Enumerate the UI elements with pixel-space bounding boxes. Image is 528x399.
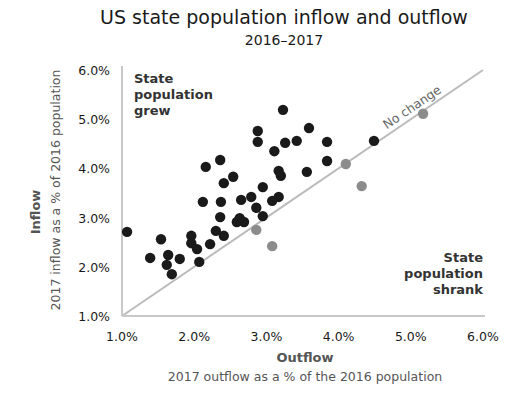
data-points <box>122 105 428 280</box>
no-change-label: No change <box>380 82 444 132</box>
data-point <box>236 195 246 205</box>
data-point <box>122 227 132 237</box>
x-axis-title: Outflow <box>276 350 333 365</box>
data-point <box>246 192 256 202</box>
data-point <box>239 217 249 227</box>
scatter-plot: No change 1.0%2.0%3.0%4.0%5.0%6.0%1.0%2.… <box>0 0 528 399</box>
data-point <box>194 257 204 267</box>
data-point <box>258 182 268 192</box>
data-point <box>302 167 312 177</box>
data-point <box>341 159 351 169</box>
axis-labels: 1.0%2.0%3.0%4.0%5.0%6.0%1.0%2.0%3.0%4.0%… <box>28 63 499 384</box>
x-tick-label: 3.0% <box>251 329 283 344</box>
y-tick-label: 6.0% <box>78 63 110 78</box>
data-point <box>215 212 225 222</box>
y-tick-label: 1.0% <box>78 309 110 324</box>
data-point <box>167 269 177 279</box>
data-point <box>192 244 202 254</box>
x-tick-label: 2.0% <box>178 329 210 344</box>
x-tick-label: 5.0% <box>395 329 427 344</box>
y-tick-label: 5.0% <box>78 112 110 127</box>
y-tick-label: 3.0% <box>78 211 110 226</box>
data-point <box>219 231 229 241</box>
data-point <box>216 197 226 207</box>
data-point <box>251 203 261 213</box>
data-point <box>369 136 379 146</box>
data-point <box>322 156 332 166</box>
data-point <box>162 260 172 270</box>
data-point <box>215 155 225 165</box>
data-point <box>292 136 302 146</box>
data-point <box>418 109 428 119</box>
y-tick-label: 4.0% <box>78 161 110 176</box>
annotation-shrank: State <box>444 250 484 265</box>
data-point <box>258 211 268 221</box>
y-tick-label: 2.0% <box>78 260 110 275</box>
data-point <box>228 172 238 182</box>
data-point <box>163 250 173 260</box>
x-axis-subtitle: 2017 outflow as a % of the 2016 populati… <box>168 369 442 384</box>
data-point <box>278 105 288 115</box>
data-point <box>156 234 166 244</box>
annotation-grew: population <box>134 87 213 102</box>
annotation-grew: grew <box>134 103 171 118</box>
data-point <box>280 138 290 148</box>
y-axis-title: Inflow <box>28 190 43 235</box>
data-point <box>304 123 314 133</box>
annotation-shrank: shrank <box>433 282 483 297</box>
data-point <box>273 192 283 202</box>
annotation-grew: State <box>134 71 174 86</box>
x-tick-label: 1.0% <box>106 329 138 344</box>
annotation-shrank: population <box>404 266 483 281</box>
data-point <box>201 162 211 172</box>
data-point <box>251 225 261 235</box>
data-point <box>253 137 263 147</box>
x-tick-label: 4.0% <box>323 329 355 344</box>
data-point <box>267 241 277 251</box>
data-point <box>269 146 279 156</box>
data-point <box>175 254 185 264</box>
x-tick-label: 6.0% <box>467 329 499 344</box>
data-point <box>205 239 215 249</box>
data-point <box>219 178 229 188</box>
data-point <box>253 126 263 136</box>
data-point <box>357 181 367 191</box>
y-axis-subtitle: 2017 inflow as a % of 2016 population <box>48 70 63 311</box>
data-point <box>322 137 332 147</box>
data-point <box>145 253 155 263</box>
data-point <box>198 197 208 207</box>
data-point <box>276 171 286 181</box>
